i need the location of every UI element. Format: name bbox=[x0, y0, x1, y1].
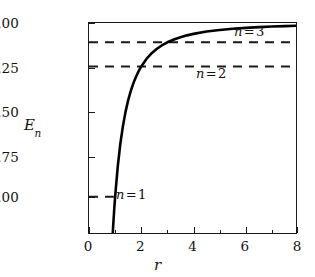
y-axis-title: En bbox=[24, 116, 42, 136]
annotation-n2-letter: n bbox=[196, 66, 204, 81]
x-axis-title: r bbox=[0, 256, 315, 274]
y-tick-label-2: −0.50 bbox=[0, 104, 19, 120]
x-tick-label-2: 4 bbox=[173, 238, 213, 254]
annotation-n1: n = 1 bbox=[116, 187, 146, 202]
x-tick-label-3: 6 bbox=[225, 238, 265, 254]
annotation-n1-value: 1 bbox=[138, 187, 146, 202]
y-axis-title-subscript: n bbox=[34, 127, 41, 139]
plot-area bbox=[88, 22, 297, 234]
annotation-n3-value: 3 bbox=[256, 24, 264, 39]
x-tick-label-4: 8 bbox=[277, 238, 315, 254]
annotation-n3-equals: = bbox=[244, 24, 255, 39]
y-tick-label-4: −1.00 bbox=[0, 189, 19, 205]
x-tick-4 bbox=[297, 227, 298, 233]
annotation-n1-equals: = bbox=[126, 187, 137, 202]
annotation-n2: n = 2 bbox=[196, 66, 226, 81]
y-tick-label-3: −0.75 bbox=[0, 149, 19, 165]
annotation-n3-letter: n bbox=[234, 24, 242, 39]
energy-level-chart: En 0.00 −0.25 −0.50 −0.75 −1.00 0 2 4 6 … bbox=[0, 0, 315, 277]
x-tick-label-0: 0 bbox=[68, 238, 108, 254]
annotation-n3: n = 3 bbox=[234, 24, 264, 39]
y-tick-label-0: 0.00 bbox=[0, 15, 19, 31]
annotation-n2-equals: = bbox=[206, 66, 217, 81]
annotation-n2-value: 2 bbox=[218, 66, 226, 81]
x-tick-label-1: 2 bbox=[120, 238, 160, 254]
y-tick-label-1: −0.25 bbox=[0, 60, 19, 76]
annotation-n1-letter: n bbox=[116, 187, 124, 202]
